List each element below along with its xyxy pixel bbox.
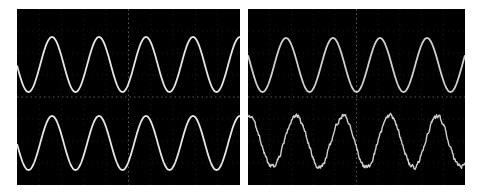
oscilloscope-panel-left bbox=[17, 9, 240, 185]
waveform-plot bbox=[248, 9, 465, 185]
waveform-trace-2 bbox=[17, 116, 240, 170]
oscilloscope-panel-right bbox=[248, 9, 465, 185]
waveform-plot bbox=[17, 9, 240, 185]
